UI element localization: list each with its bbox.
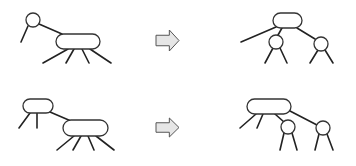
diagram-canvas xyxy=(0,0,356,166)
tree-edge xyxy=(57,136,74,150)
tree-edge xyxy=(315,134,319,150)
tree-edge xyxy=(50,112,71,121)
tree-transformation-diagram xyxy=(0,0,356,166)
tree-edge xyxy=(21,26,28,42)
bottom-before-tree xyxy=(19,99,114,150)
tree-edge xyxy=(275,114,284,122)
b2-circle-right-node xyxy=(316,121,330,135)
tree-edge xyxy=(292,133,297,150)
tree-edge xyxy=(280,133,284,150)
top-transform-arrow-icon xyxy=(156,30,179,51)
t1-circle-node xyxy=(26,13,40,27)
b1-capsule-big-node xyxy=(63,120,108,136)
tree-edge xyxy=(327,134,333,150)
tree-edge xyxy=(19,113,30,128)
tree-edge xyxy=(73,136,81,150)
tree-edge xyxy=(278,28,282,35)
tree-edge xyxy=(66,49,74,63)
t2-circle-left-node xyxy=(269,35,283,49)
t2-circle-right-node xyxy=(314,37,328,51)
bottom-transform-arrow-icon xyxy=(156,118,179,137)
tree-edge xyxy=(88,136,94,150)
tree-edge xyxy=(310,50,318,63)
b2-circle-left-node xyxy=(281,120,295,134)
tree-edge xyxy=(43,49,68,63)
tree-edge xyxy=(96,136,114,150)
t1-capsule-node xyxy=(56,34,100,49)
tree-edge xyxy=(257,114,263,128)
tree-edge xyxy=(82,49,89,63)
b2-capsule-node xyxy=(247,99,291,114)
bottom-after-tree xyxy=(240,99,333,150)
top-after-tree xyxy=(241,13,333,63)
b1-capsule-small-node xyxy=(23,99,53,113)
tree-edge xyxy=(297,28,315,39)
tree-edge xyxy=(280,48,287,63)
tree-edge xyxy=(39,24,62,34)
tree-edge xyxy=(240,114,256,128)
tree-edge xyxy=(265,48,273,63)
tree-edge xyxy=(325,50,333,63)
top-before-tree xyxy=(21,13,111,63)
tree-edge xyxy=(90,49,111,63)
t2-capsule-node xyxy=(273,13,302,28)
